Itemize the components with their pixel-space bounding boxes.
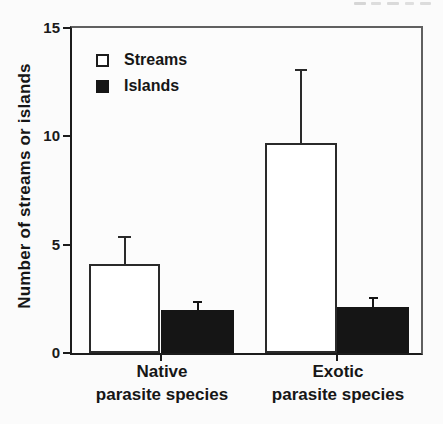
bar-islands-native <box>161 310 234 353</box>
legend-label-islands: Islands <box>124 77 179 95</box>
category-label-native: Native parasite species <box>96 361 228 406</box>
bar-islands-exotic <box>337 307 409 353</box>
error-cap-streams-native <box>118 236 131 238</box>
error-bar-streams-native <box>124 238 126 264</box>
category-label-exotic: Exotic parasite species <box>272 361 404 406</box>
x-tick-native <box>160 354 162 361</box>
plot-area: Streams Islands <box>70 26 423 355</box>
category-native-line2: parasite species <box>96 384 228 406</box>
y-tick-label-0: 0 <box>26 346 60 360</box>
legend-item-streams: Streams <box>96 47 187 73</box>
scan-artifact <box>350 1 438 6</box>
y-tick-label-5: 5 <box>26 238 60 252</box>
bar-streams-exotic <box>265 143 337 353</box>
error-bar-streams-exotic <box>300 71 302 143</box>
category-exotic-line1: Exotic <box>272 361 404 382</box>
error-bar-islands-exotic <box>372 299 374 307</box>
legend: Streams Islands <box>96 47 187 99</box>
legend-label-streams: Streams <box>124 51 187 69</box>
y-tick-label-10: 10 <box>26 129 60 143</box>
error-cap-islands-exotic <box>369 297 378 299</box>
x-tick-exotic <box>336 354 338 361</box>
y-axis-label: Number of streams or islands <box>15 63 35 309</box>
bar-streams-native <box>89 264 160 353</box>
y-tick-label-15: 15 <box>26 21 60 35</box>
category-native-line1: Native <box>96 361 228 382</box>
error-bar-islands-native <box>197 303 199 310</box>
error-cap-streams-exotic <box>295 69 307 71</box>
legend-item-islands: Islands <box>96 73 187 99</box>
category-exotic-line2: parasite species <box>272 384 404 406</box>
open-square-swatch <box>96 54 109 67</box>
bar-chart-figure: Number of streams or islands 051015 Stre… <box>0 0 443 424</box>
filled-square-swatch <box>96 80 109 93</box>
error-cap-islands-native <box>193 301 202 303</box>
